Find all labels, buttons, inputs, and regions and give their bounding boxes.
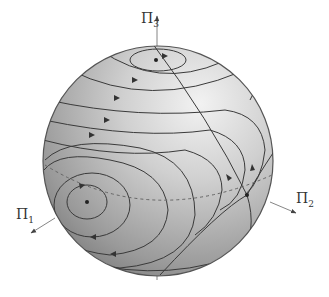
sphere-diagram [0, 0, 329, 297]
fixed-point-left [85, 200, 89, 204]
axis-pi2 [270, 202, 296, 213]
axis-label-pi2: Π2 [296, 190, 314, 209]
axis-label-pi1: Π1 [16, 206, 34, 225]
axis-pi1 [31, 218, 55, 233]
axis-symbol: Π [16, 206, 28, 222]
axis-subscript: 3 [153, 19, 159, 29]
axis-label-pi3: Π3 [141, 10, 159, 29]
axis-subscript: 1 [28, 215, 34, 225]
axis-subscript: 2 [308, 199, 314, 209]
fixed-point-top [154, 58, 158, 62]
axis-symbol: Π [141, 10, 153, 26]
saddle-point [245, 193, 249, 197]
sphere [43, 46, 273, 276]
axis-symbol: Π [296, 190, 308, 206]
